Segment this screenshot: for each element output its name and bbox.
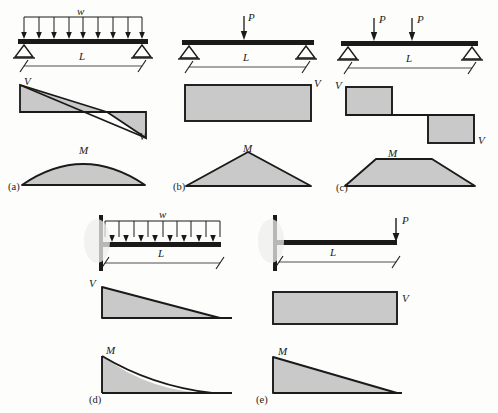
support-left-c — [337, 47, 359, 60]
moment-label-a: M — [79, 145, 88, 156]
load-label-w-a: w — [77, 6, 84, 17]
beam-c — [341, 41, 478, 46]
span-label-L-e: L — [330, 247, 336, 258]
support-right-a — [131, 45, 153, 58]
beam-e — [275, 240, 397, 245]
beam-b — [182, 40, 314, 45]
moment-label-c: M — [388, 148, 397, 159]
point-load-arrow-c-2 — [409, 18, 415, 41]
distributed-load-arrows-a — [21, 17, 145, 39]
shear-label-left-a: V — [24, 76, 31, 87]
distributed-load-arrows-d — [105, 221, 220, 242]
support-right-b — [295, 46, 317, 59]
shear-diagram-c — [346, 87, 474, 143]
shear-diagram-a — [20, 85, 146, 138]
shear-label-left-d: V — [89, 278, 96, 289]
load-label-P-c-1: P — [379, 14, 386, 25]
panel-caption-e: (e) — [256, 395, 268, 406]
moment-diagram-c — [345, 159, 475, 186]
point-load-arrow-c-1 — [371, 18, 377, 41]
load-label-P-e: P — [402, 215, 409, 226]
beam-a — [18, 39, 148, 44]
moment-diagram-b — [186, 152, 311, 186]
point-load-arrow-e — [393, 218, 400, 242]
span-label-L-d: L — [158, 248, 164, 259]
shear-diagram-e — [273, 292, 397, 324]
panel-caption-a: (a) — [8, 182, 20, 193]
panel-d-graphics — [80, 205, 260, 413]
panel-d: w L V M (d) — [80, 205, 260, 413]
panel-caption-d: (d) — [89, 395, 101, 406]
moment-label-b: M — [243, 143, 252, 154]
support-right-c — [461, 47, 483, 60]
support-left-a — [13, 45, 35, 58]
moment-diagram-a — [22, 164, 145, 185]
moment-diagram-e — [273, 357, 402, 393]
load-label-w-d: w — [159, 209, 166, 220]
span-label-L-a: L — [79, 51, 85, 62]
shear-label-right-e: V — [402, 293, 409, 304]
span-label-L-b: L — [243, 52, 249, 63]
panel-c-graphics — [328, 0, 498, 200]
shear-label-right-a: V — [139, 131, 146, 142]
dimension-line-e — [275, 256, 400, 268]
panel-e-graphics — [250, 205, 440, 413]
load-label-P-b: P — [248, 12, 255, 23]
panel-a-graphics — [0, 0, 168, 200]
shear-label-right-c: V — [478, 135, 485, 146]
moment-diagram-d — [102, 356, 232, 393]
shear-diagram-d — [102, 287, 232, 318]
point-load-arrow-b — [241, 16, 247, 40]
panel-caption-c: (c) — [336, 183, 348, 194]
beam-diagram-figure: w L V V M (a) — [0, 0, 498, 413]
shear-diagram-b — [185, 85, 311, 121]
panel-a: w L V V M (a) — [0, 0, 168, 200]
panel-b: P L V M (b) — [168, 0, 328, 200]
shear-label-right-b: V — [314, 78, 321, 89]
moment-label-e: M — [278, 346, 287, 357]
support-left-b — [178, 46, 200, 59]
load-label-P-c-2: P — [417, 14, 424, 25]
panel-c: P P L V V M (c) — [328, 0, 498, 200]
panel-b-graphics — [168, 0, 328, 200]
shear-label-left-c: V — [335, 80, 342, 91]
panel-caption-b: (b) — [173, 182, 185, 193]
moment-label-d: M — [106, 345, 115, 356]
span-label-L-c: L — [406, 53, 412, 64]
panel-e: P L V M (e) — [250, 205, 440, 413]
